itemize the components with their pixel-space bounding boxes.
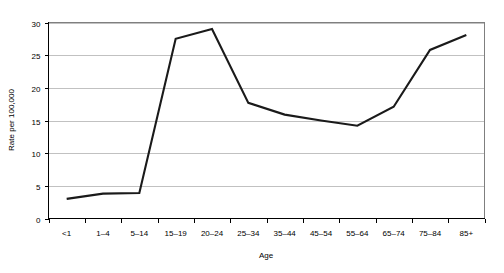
y-axis-tick-label: 25: [32, 52, 41, 61]
x-axis-tick-label: 25–34: [237, 229, 260, 238]
x-axis-tick-label: 65–74: [383, 229, 406, 238]
x-axis-tick-label: 45–54: [310, 229, 333, 238]
y-axis-title: Rate per 100,000: [7, 89, 16, 151]
x-axis-tick-label: 55–64: [346, 229, 369, 238]
x-axis-tick-label: 15–19: [165, 229, 188, 238]
x-axis-tick-label: 1–4: [96, 229, 110, 238]
x-axis-tick-label: 20–24: [201, 229, 224, 238]
x-axis-title: Age: [259, 251, 274, 260]
chart-container: 051015202530 <11–45–1415–1920–2425–3435–…: [0, 0, 504, 273]
y-axis-tick-label: 15: [32, 118, 41, 127]
y-axis-tick-label: 30: [32, 20, 41, 29]
x-axis-tick-label: <1: [62, 229, 72, 238]
x-axis-tick-label: 35–44: [274, 229, 297, 238]
y-axis-tick-label: 0: [36, 216, 41, 225]
y-axis-tick-label: 5: [36, 183, 41, 192]
line-chart: 051015202530 <11–45–1415–1920–2425–3435–…: [0, 0, 504, 273]
x-axis-tick-label: 5–14: [130, 229, 148, 238]
x-axis-tick-label: 85+: [460, 229, 474, 238]
y-axis-tick-label: 20: [32, 85, 41, 94]
y-axis-tick-label: 10: [32, 150, 41, 159]
x-axis-tick-label: 75–84: [419, 229, 442, 238]
